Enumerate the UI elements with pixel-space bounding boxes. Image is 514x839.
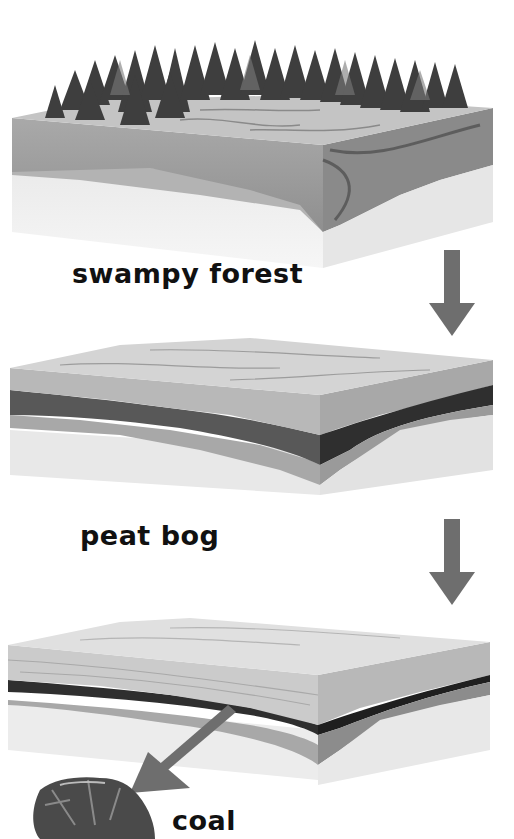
peat-bog-block <box>0 320 514 550</box>
stage-coal-seam: coal <box>0 600 514 839</box>
stage-label-swampy-forest: swampy forest <box>72 258 303 289</box>
arrow-down-icon <box>427 517 477 607</box>
swampy-forest-block <box>0 0 514 290</box>
stage-peat-bog: peat bog <box>0 320 514 550</box>
stage-swampy-forest: swampy forest <box>0 0 514 290</box>
stage-label-coal: coal <box>172 805 236 836</box>
coal-seam-block <box>0 600 514 839</box>
stage-label-peat-bog: peat bog <box>80 520 219 551</box>
